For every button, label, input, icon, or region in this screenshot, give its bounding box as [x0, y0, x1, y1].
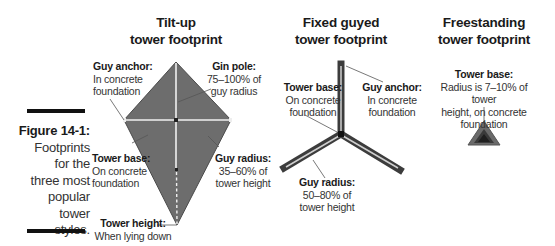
tilt-up-guy-anchor-label: Guy anchor: In concrete foundation — [93, 60, 163, 98]
caption-line: for the — [10, 156, 90, 173]
tilt-up-tower-base-label: Tower base: On concrete foundation — [92, 152, 162, 190]
fixed-guyed-guy-anchor-label: Guy anchor: In concrete foundation — [357, 81, 427, 119]
fixed-guyed-title: Fixed guyed tower footprint — [291, 14, 391, 48]
figure-caption: Figure 14-1: Footprints for the three mo… — [10, 123, 90, 239]
fixed-guyed-guy-radius-label: Guy radius: 50–80% of tower height — [292, 176, 362, 214]
tilt-up-title: Tilt-up tower footprint — [126, 14, 226, 48]
figure-number: Figure 14-1: — [10, 123, 90, 140]
caption-line: popular — [10, 189, 90, 206]
fixed-guyed-tower-base-label: Tower base: On concrete foundation — [278, 81, 348, 119]
tilt-up-guy-radius-label: Guy radius: 35–60% of tower height — [208, 152, 278, 190]
caption-line: Footprints — [10, 140, 90, 157]
caption-top-rule — [27, 109, 85, 113]
caption-bottom-rule — [27, 229, 85, 233]
tilt-up-gin-pole-label: Gin pole: 75–100% of guy radius — [201, 60, 267, 98]
freestanding-title: Freestanding tower footprint — [434, 14, 534, 48]
caption-line: three most — [10, 173, 90, 190]
freestanding-tower-base-label: Tower base: Radius is 7–10% of tower hei… — [432, 68, 536, 131]
caption-line: tower — [10, 206, 90, 223]
tilt-up-tower-height-label: Tower height: When lying down — [88, 217, 178, 242]
